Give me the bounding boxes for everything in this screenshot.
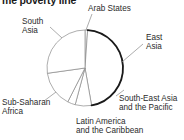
slice-label-latin-america: Latin America and the Caribbean xyxy=(76,117,143,136)
slice-label-latin-america-line2: and the Caribbean xyxy=(76,126,143,135)
slice-label-south-east-asia: South-East Asia and the Pacific xyxy=(119,94,177,113)
slice-label-east-asia: East Asia xyxy=(146,33,162,52)
slice-label-sub-saharan-africa-line2: Africa xyxy=(2,107,50,116)
slice-label-east-asia-line2: Asia xyxy=(146,42,162,51)
slice-label-east-asia-line1: East xyxy=(146,33,162,42)
slice-label-south-asia: South Asia xyxy=(22,17,43,36)
slice-label-arab-states-line1: Arab States xyxy=(88,4,131,13)
slice-label-south-asia-line1: South xyxy=(22,17,43,26)
slice-label-sub-saharan-africa-line1: Sub-Saharan xyxy=(2,98,50,107)
slice-label-south-east-asia-line2: and the Pacific xyxy=(119,103,177,112)
pie-slice xyxy=(47,30,85,73)
slice-label-south-asia-line2: Asia xyxy=(22,26,43,35)
leader-line-arab-states xyxy=(86,14,92,30)
leader-line-south-asia xyxy=(50,27,62,38)
pie-chart-figure: me poverty line Arab States East Asia So… xyxy=(0,0,184,140)
pie-slice xyxy=(85,30,123,105)
slice-label-arab-states: Arab States xyxy=(88,4,131,13)
slice-label-sub-saharan-africa: Sub-Saharan Africa xyxy=(2,98,50,117)
slice-label-south-east-asia-line1: South-East Asia xyxy=(119,94,177,103)
slice-label-latin-america-line1: Latin America xyxy=(76,117,143,126)
leader-line-east-asia xyxy=(122,44,143,62)
